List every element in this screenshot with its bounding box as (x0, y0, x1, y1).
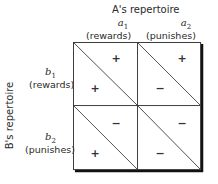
column-header-a1: a1 (88, 17, 158, 31)
cell-a2b1-lower-sign: − (154, 83, 166, 95)
row-title: B's repertoire (4, 81, 15, 151)
cell-a1b2-lower-sign: + (89, 148, 101, 160)
row-label-b1: (rewards) (29, 79, 74, 90)
column-label-a1: (rewards) (86, 30, 131, 41)
row-header-b1: b1 (45, 66, 56, 80)
column-title: A's repertoire (112, 4, 180, 15)
column-header-a2: a2 (151, 17, 218, 31)
column-label-a2: (punishes) (146, 30, 196, 41)
cell-a1b1-upper-sign: + (110, 53, 122, 65)
row-label-b2: (punishes) (25, 144, 75, 155)
cell-a2b1-upper-sign: + (176, 53, 188, 65)
cell-a1b2-upper-sign: − (110, 118, 122, 130)
cell-a2b2-lower-sign: − (154, 148, 166, 160)
cell-a1b1-lower-sign: + (89, 83, 101, 95)
cell-a2b2-upper-sign: − (176, 118, 188, 130)
row-header-b2: b2 (45, 131, 56, 145)
